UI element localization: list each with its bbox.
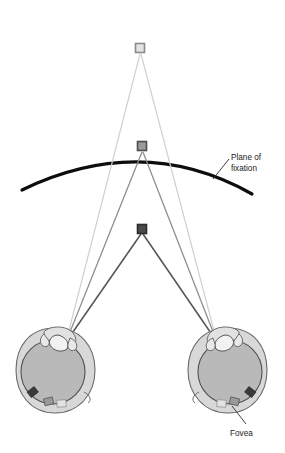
binocular-vision-diagram: Plane of fixation Fovea bbox=[0, 0, 285, 453]
left-eye bbox=[16, 327, 95, 413]
near-target-square bbox=[138, 225, 147, 234]
far-target-square bbox=[136, 44, 145, 53]
plane-of-fixation-label-line2: fixation bbox=[231, 164, 257, 173]
plane-of-fixation-arc bbox=[22, 162, 252, 194]
fovea-label: Fovea bbox=[230, 429, 253, 438]
plane-of-fixation-annotation: Plane of fixation bbox=[213, 153, 262, 179]
plane-of-fixation-label-line1: Plane of bbox=[231, 153, 262, 162]
figure-canvas: Plane of fixation Fovea bbox=[0, 0, 285, 453]
right-retinal-image-far bbox=[217, 400, 226, 408]
fixation-target-square bbox=[138, 142, 147, 151]
plane-of-fixation-leader-line bbox=[213, 159, 229, 179]
right-eye bbox=[188, 327, 267, 413]
left-retinal-image-far bbox=[57, 400, 66, 408]
